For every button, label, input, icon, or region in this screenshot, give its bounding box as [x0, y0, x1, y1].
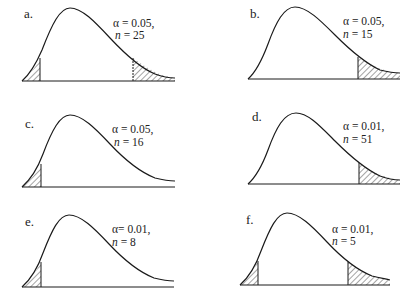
panel-a: a. α = 0.05, n = 25: [22, 6, 175, 81]
alpha-text: α = 0.05,: [343, 15, 384, 28]
n-value: = 5: [338, 235, 356, 247]
n-text: n = 5: [332, 235, 356, 247]
n-value: = 51: [349, 133, 373, 145]
panel-c: c. α = 0.05, n = 16: [22, 115, 175, 187]
n-text: n = 15: [343, 28, 373, 40]
alpha-text: α = 0.05,: [112, 123, 153, 136]
n-value: = 8: [118, 236, 136, 248]
panel-label: f.: [246, 212, 254, 227]
panel-d: d. α = 0.01, n = 51: [248, 109, 400, 184]
n-text: n = 25: [115, 29, 145, 41]
panel-label: c.: [25, 116, 34, 131]
panel-e: e. α= 0.01, n = 8: [22, 214, 174, 287]
chi-square-figure: a. α = 0.05, n = 25 b. α = 0.05, n = 15 …: [0, 0, 419, 307]
distribution-curve: [22, 215, 174, 287]
panel-f: f. α = 0.01, n = 5: [240, 212, 390, 285]
panel-label: d.: [252, 109, 262, 124]
left-critical-region: [22, 58, 40, 81]
n-text: n = 16: [114, 136, 144, 148]
right-critical-region: [348, 262, 390, 285]
n-value: = 16: [120, 136, 144, 148]
panel-label: b.: [250, 6, 260, 21]
n-value: = 25: [121, 29, 145, 41]
panel-label: e.: [25, 214, 34, 229]
n-text: n = 8: [112, 236, 136, 248]
panel-b: b. α = 0.05, n = 15: [248, 6, 400, 79]
alpha-text: α = 0.01,: [343, 120, 384, 133]
n-value: = 15: [349, 28, 373, 40]
panel-label: a.: [24, 6, 33, 21]
n-text: n = 51: [343, 133, 373, 145]
right-critical-region: [359, 163, 400, 184]
alpha-text: α= 0.01,: [112, 223, 151, 236]
